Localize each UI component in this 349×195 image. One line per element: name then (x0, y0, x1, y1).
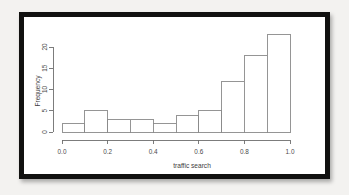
y-axis-tick-label: 15 (41, 64, 48, 72)
y-axis: 05101520 (41, 43, 53, 134)
histogram-chart: 05101520 0.00.20.40.60.81.0 traffic sear… (24, 17, 325, 174)
histogram-bar (199, 111, 222, 132)
y-axis-tick-label: 20 (41, 43, 48, 51)
histogram-plot-area: 05101520 0.00.20.40.60.81.0 traffic sear… (24, 17, 325, 174)
histogram-bar (244, 56, 267, 133)
histogram-bar (222, 81, 245, 132)
histogram-bars (62, 34, 290, 132)
screenshot-canvas: 05101520 0.00.20.40.60.81.0 traffic sear… (0, 0, 349, 195)
histogram-bar (176, 115, 199, 132)
x-axis: 0.00.20.40.60.81.0 (58, 140, 295, 155)
chart-panel: 05101520 0.00.20.40.60.81.0 traffic sear… (24, 17, 325, 174)
histogram-bar (108, 119, 131, 132)
x-axis-title: traffic search (173, 162, 211, 169)
image-frame-border: 05101520 0.00.20.40.60.81.0 traffic sear… (19, 12, 330, 179)
histogram-bar (85, 111, 108, 132)
histogram-bar (130, 119, 153, 132)
x-axis-tick-label: 0.6 (194, 148, 203, 155)
histogram-bar (153, 124, 176, 133)
y-axis-tick-label: 10 (41, 86, 48, 94)
x-axis-tick-label: 0.0 (58, 148, 67, 155)
y-axis-tick-label: 5 (41, 109, 48, 113)
x-axis-tick-label: 1.0 (286, 148, 295, 155)
histogram-bar (267, 34, 290, 132)
x-axis-tick-label: 0.8 (240, 148, 249, 155)
y-axis-tick-label: 0 (41, 130, 48, 134)
x-axis-tick-label: 0.4 (149, 148, 158, 155)
histogram-bar (62, 124, 85, 133)
x-axis-tick-label: 0.2 (103, 148, 112, 155)
y-axis-title: Frequency (34, 75, 42, 107)
